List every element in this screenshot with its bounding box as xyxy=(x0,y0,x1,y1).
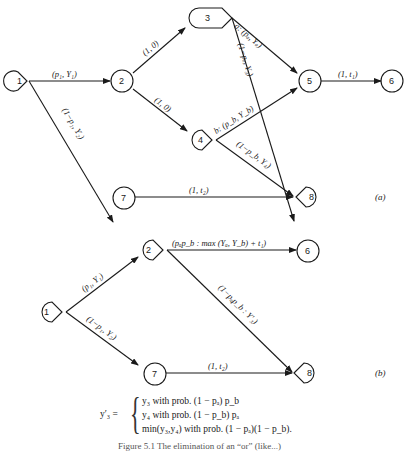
node-5-label: 5 xyxy=(307,76,312,86)
node-3-shape xyxy=(189,8,232,28)
edge-2-4-label: (1, 0) xyxy=(153,95,174,114)
formula-case-2: y₄ with prob. (1 − p_b) pₐ xyxy=(142,408,292,422)
panel-b-labels: 1 2 6 7 8 (p₁, Y₁) (1−p₁, Y₂) (pₐp_b : m… xyxy=(44,238,386,379)
panel-a-edge-labels: (p₁, Y₁) (1−p₁, Y₂) (1, 0) (1, 0) a: (pₐ… xyxy=(52,21,386,202)
node-7-label: 7 xyxy=(121,193,126,203)
edge-5-6-label: (1, t₁) xyxy=(338,69,358,79)
edge-b-1-7 xyxy=(66,312,138,365)
node-b-6-label: 6 xyxy=(305,246,310,256)
edge-2-3-label: (1, 0) xyxy=(140,38,161,58)
edge-b-7-8-label: (1, t₂) xyxy=(208,361,228,371)
formula-lhs: y′₃ = xyxy=(100,409,118,419)
node-4-label: 4 xyxy=(198,135,203,145)
edge-b-2-8 xyxy=(167,250,292,372)
node-b-1-label: 1 xyxy=(44,307,49,317)
formula-cases: y₃ with prob. (1 − pₐ) p_b y₄ with prob.… xyxy=(142,394,292,436)
node-8-label: 8 xyxy=(309,192,314,202)
edge-4-8-label: (1−p_b, Y₄) xyxy=(235,139,274,171)
edge-1-2-label: (p₁, Y₁) xyxy=(52,69,77,79)
edge-1-7-label: (1−p₁, Y₂) xyxy=(60,106,87,141)
node-b-7-label: 7 xyxy=(152,369,157,379)
panel-a-node-labels: 1 2 3 4 5 6 7 8 xyxy=(17,13,394,203)
edge-1-7 xyxy=(29,81,113,222)
edge-b-2-6-label: (pₐp_b : max (Yₐ, Y_b) + t₁) xyxy=(172,238,266,248)
node-b-2-label: 2 xyxy=(146,245,151,255)
activity-network-diagram: 1 2 3 4 5 6 7 8 (p₁, Y₁) (1−p₁, Y₂) (1, … xyxy=(0,0,404,453)
node-3-label: 3 xyxy=(205,13,210,23)
panel-b xyxy=(42,240,319,385)
edge-b-1-2 xyxy=(66,257,138,312)
left-brace: { xyxy=(130,392,141,436)
node-1-label: 1 xyxy=(17,76,22,86)
edge-4-5 xyxy=(216,88,297,140)
edge-7-8-label: (1, t₂) xyxy=(189,185,209,195)
panel-a-label: (a) xyxy=(375,192,386,202)
figure-caption: Figure 5.1 The elimination of an “or” (l… xyxy=(118,441,281,451)
formula-case-3: min(y₃,y₄) with prob. (1 − pₐ)(1 − p_b). xyxy=(142,422,292,436)
formula-case-1: y₃ with prob. (1 − pₐ) p_b xyxy=(142,394,292,408)
edge-b-1-2-label: (p₁, Y₁) xyxy=(79,271,105,294)
edge-3-8-label: (1−pₐ, Y₃) xyxy=(236,42,256,78)
node-b-8-label: 8 xyxy=(307,368,312,378)
panel-b-label: (b) xyxy=(375,368,386,378)
node-6-label: 6 xyxy=(389,76,394,86)
node-2-label: 2 xyxy=(119,76,124,86)
node-1-shape xyxy=(4,71,27,91)
